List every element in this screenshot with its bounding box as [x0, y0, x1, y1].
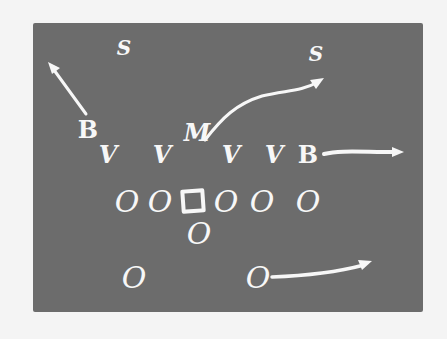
running-back-left: O	[122, 263, 147, 293]
quarterback: O	[187, 219, 212, 249]
backer-right: B	[298, 143, 318, 167]
offensive-lineman: O	[115, 187, 140, 217]
safety-right: S	[309, 44, 323, 64]
safety-left: S	[117, 38, 131, 58]
defensive-lineman: V	[99, 143, 118, 167]
center-square-icon	[180, 188, 206, 214]
middle-backer: M	[184, 121, 211, 145]
defensive-lineman: V	[153, 143, 172, 167]
backer-left: B	[78, 118, 98, 142]
running-back-right: O	[246, 263, 271, 293]
defensive-lineman: V	[265, 143, 284, 167]
offensive-lineman: O	[214, 187, 239, 217]
offensive-lineman: O	[250, 187, 275, 217]
defensive-lineman: V	[222, 143, 241, 167]
tight-end: O	[296, 187, 321, 217]
offensive-lineman: O	[148, 187, 173, 217]
